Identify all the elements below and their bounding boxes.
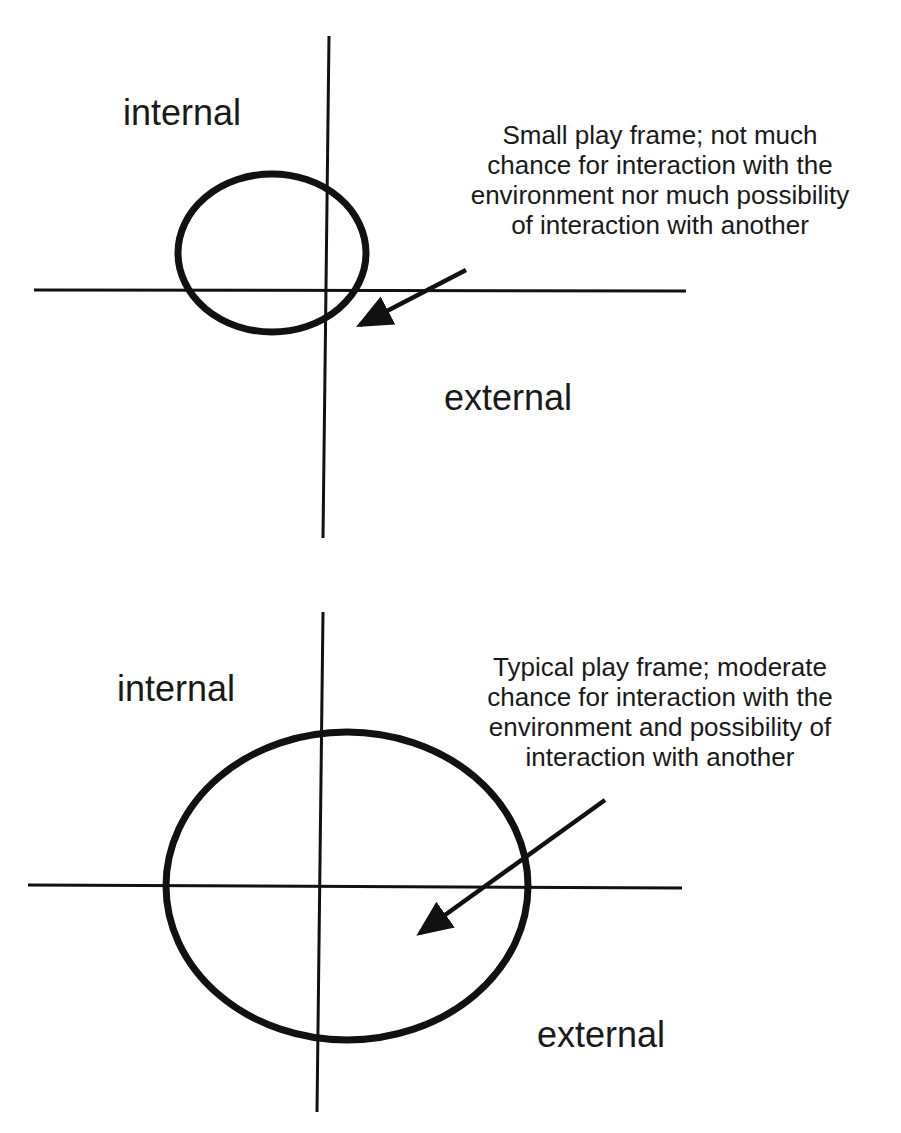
external-label: external <box>444 380 572 416</box>
pointer-arrow <box>360 270 466 325</box>
internal-label: internal <box>123 95 241 131</box>
vertical-axis <box>323 36 329 538</box>
typical-play-frame-caption: Typical play frame; moderate chance for … <box>420 652 900 772</box>
caption-line: of interaction with another <box>420 210 900 240</box>
small-play-frame-ellipse <box>178 174 366 332</box>
small-play-frame-caption: Small play frame; not much chance for in… <box>420 120 900 240</box>
caption-line: environment nor much possibility <box>420 180 900 210</box>
caption-line: interaction with another <box>420 742 900 772</box>
caption-line: chance for interaction with the <box>420 150 900 180</box>
horizontal-axis <box>34 290 686 291</box>
internal-label: internal <box>117 671 235 707</box>
caption-line: chance for interaction with the <box>420 682 900 712</box>
external-label: external <box>537 1017 665 1053</box>
horizontal-axis <box>28 885 682 888</box>
caption-line: Small play frame; not much <box>420 120 900 150</box>
caption-line: environment and possibility of <box>420 712 900 742</box>
caption-line: Typical play frame; moderate <box>420 652 900 682</box>
